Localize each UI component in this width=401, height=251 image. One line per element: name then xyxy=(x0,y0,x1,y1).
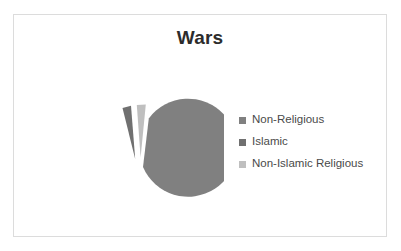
pie-slice-islamic xyxy=(123,106,136,159)
legend-item-label: Non-Religious xyxy=(252,114,324,126)
legend-item-non-religious[interactable]: Non-Religious xyxy=(239,110,389,130)
pie-slice-non-islamic-religious xyxy=(137,105,146,158)
legend-swatch-icon xyxy=(239,161,246,168)
legend-swatch-icon xyxy=(239,139,246,146)
pie-chart-svg xyxy=(64,67,224,227)
chart-legend: Non-Religious Islamic Non-Islamic Religi… xyxy=(239,110,389,176)
legend-item-non-islamic-religious[interactable]: Non-Islamic Religious xyxy=(239,154,389,174)
pie-slice-non-religious xyxy=(143,99,224,197)
pie-chart xyxy=(64,67,224,227)
chart-title: Wars xyxy=(14,28,386,47)
legend-swatch-icon xyxy=(239,117,246,124)
legend-item-label: Islamic xyxy=(252,136,288,148)
chart-frame: Wars Non-Religious Islamic Non-Islamic R… xyxy=(13,14,387,237)
legend-item-islamic[interactable]: Islamic xyxy=(239,132,389,152)
legend-item-label: Non-Islamic Religious xyxy=(252,158,363,170)
